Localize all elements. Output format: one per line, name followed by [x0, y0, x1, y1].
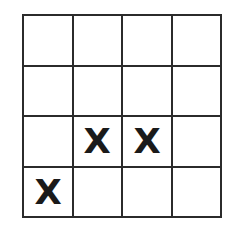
grid-cell[interactable]: [24, 67, 74, 118]
figure-canvas: X X X: [0, 0, 235, 228]
cell-mark: X: [133, 124, 160, 158]
grid-cell[interactable]: [24, 16, 74, 67]
puzzle-grid: X X X: [22, 14, 222, 218]
grid-cell[interactable]: [123, 168, 173, 219]
grid-cell[interactable]: X: [123, 117, 173, 168]
grid-cell[interactable]: [173, 117, 223, 168]
cell-mark: X: [84, 124, 111, 158]
grid-cell[interactable]: [74, 67, 124, 118]
grid-cell[interactable]: X: [24, 168, 74, 219]
grid-cell[interactable]: [74, 168, 124, 219]
grid-cell[interactable]: [74, 16, 124, 67]
grid-cell[interactable]: [173, 67, 223, 118]
grid-cell[interactable]: [123, 67, 173, 118]
cell-mark: X: [34, 175, 61, 209]
grid-cell[interactable]: [123, 16, 173, 67]
grid-cell[interactable]: [173, 16, 223, 67]
grid-cell[interactable]: [173, 168, 223, 219]
grid-cell[interactable]: [24, 117, 74, 168]
grid-cell[interactable]: X: [74, 117, 124, 168]
